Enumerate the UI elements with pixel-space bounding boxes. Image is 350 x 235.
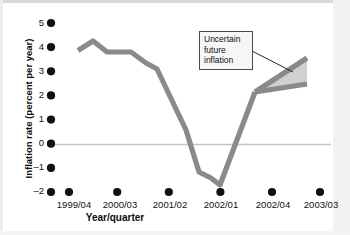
y-tick-dot-neg1 xyxy=(47,164,55,172)
uncertain-future-inflation-callout: Uncertain future inflation xyxy=(199,31,253,70)
y-tick-dot-neg2 xyxy=(47,188,55,196)
callout-line-2: future xyxy=(204,45,249,56)
y-tick-dot-1 xyxy=(47,116,55,124)
x-tick-label-2002-01: 2002/01 xyxy=(191,199,251,210)
y-axis-title: Inflation rate (percent per year) xyxy=(23,29,34,189)
y-tick-dot-0 xyxy=(47,140,55,148)
x-axis-tick-dots xyxy=(65,188,324,196)
x-tick-dot-2002-04 xyxy=(268,188,276,196)
x-tick-dot-2003-03 xyxy=(316,188,324,196)
callout-line-1: Uncertain xyxy=(204,34,249,45)
y-tick-dot-2 xyxy=(47,91,55,99)
y-tick-dot-5 xyxy=(47,19,55,27)
x-tick-dot-2002-01 xyxy=(216,188,224,196)
y-tick-dot-3 xyxy=(47,67,55,75)
x-axis-title: Year/quarter xyxy=(55,212,175,223)
callout-line-3: inflation xyxy=(204,55,249,66)
x-tick-label-2003-03: 2003/03 xyxy=(291,199,350,210)
y-tick-dot-4 xyxy=(47,43,55,51)
x-tick-dot-2000-03 xyxy=(113,188,121,196)
y-tick-label-5: 5 xyxy=(28,17,44,28)
annotation-leader-line xyxy=(252,51,293,72)
x-tick-dot-2001-02 xyxy=(165,188,173,196)
inflation-rate-chart: 5 4 3 2 1 0 –1 –2 1999/04 2000/03 2001/0… xyxy=(0,0,350,235)
y-axis-tick-dots xyxy=(47,19,55,196)
x-tick-dot-1999-04 xyxy=(65,188,73,196)
